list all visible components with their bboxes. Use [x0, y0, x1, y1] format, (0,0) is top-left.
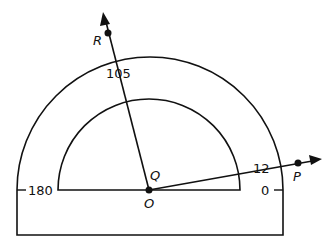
- label-P: P: [293, 169, 301, 184]
- label-105: 105: [106, 66, 131, 81]
- label-12: 12: [253, 161, 270, 176]
- arrowhead-R-icon: [100, 12, 110, 26]
- protractor-diagram: 180 0 105 12 R Q O P: [0, 0, 333, 250]
- point-P: [295, 160, 302, 167]
- label-Q: Q: [150, 168, 160, 183]
- point-O: [146, 187, 153, 194]
- label-180: 180: [28, 183, 53, 198]
- point-R: [105, 30, 112, 37]
- arrowhead-P-icon: [309, 155, 322, 165]
- label-O: O: [144, 196, 154, 211]
- protractor-inner-outline: [58, 99, 240, 190]
- label-R: R: [93, 33, 102, 48]
- label-0: 0: [261, 183, 269, 198]
